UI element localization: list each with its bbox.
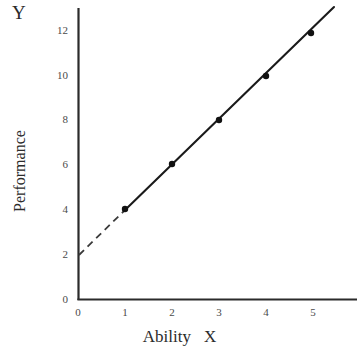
y-tick-label: 10 bbox=[46, 70, 68, 81]
data-point-marker bbox=[122, 206, 128, 212]
x-tick-label: 3 bbox=[209, 307, 229, 318]
y-tick-label: 4 bbox=[46, 204, 68, 215]
y-axis-title: Performance bbox=[12, 106, 28, 236]
y-tick-label: 8 bbox=[46, 114, 68, 125]
x-tick-label: 5 bbox=[303, 307, 323, 318]
x-tick-label: 4 bbox=[256, 307, 276, 318]
chart-figure: Y Performance 0 2 4 6 8 10 12 0 1 2 3 4 … bbox=[0, 0, 359, 353]
data-point-marker bbox=[263, 73, 269, 79]
data-point-marker bbox=[308, 30, 314, 36]
data-point-marker bbox=[216, 117, 222, 123]
x-tick-label: 2 bbox=[162, 307, 182, 318]
y-tick-label: 0 bbox=[46, 294, 68, 305]
x-axis-title: AbilityX bbox=[0, 328, 359, 345]
y-axis-symbol: Y bbox=[12, 3, 26, 22]
x-tick-label: 1 bbox=[115, 307, 135, 318]
y-tick-label: 2 bbox=[46, 249, 68, 260]
x-axis-title-symbol: X bbox=[204, 327, 216, 346]
data-point-marker bbox=[169, 161, 175, 167]
y-tick-label: 6 bbox=[46, 159, 68, 170]
y-tick-label: 12 bbox=[46, 25, 68, 36]
x-tick-label: 0 bbox=[68, 307, 88, 318]
x-axis-title-name: Ability bbox=[143, 327, 191, 346]
